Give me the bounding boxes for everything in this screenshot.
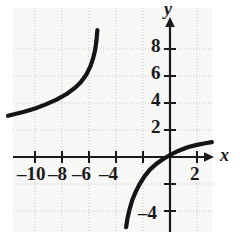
x-tick-label--10: –10 — [17, 164, 46, 183]
y-tick-label-2: 2 — [151, 117, 161, 136]
x-tick-label--6: –6 — [72, 164, 91, 183]
plot-background — [13, 8, 212, 232]
y-tick-label-6: 6 — [151, 63, 161, 82]
x-tick-label-2: 2 — [190, 164, 200, 183]
graph-figure: –10 –8 –6 –4 2 8 6 4 2 –4 y x — [0, 0, 240, 232]
coordinate-plane-svg — [0, 0, 240, 232]
x-tick-label--8: –8 — [48, 164, 67, 183]
x-axis-label: x — [220, 146, 229, 164]
y-axis-label: y — [164, 0, 172, 18]
y-tick-label-8: 8 — [151, 36, 161, 55]
y-tick-label--4: –4 — [138, 203, 157, 222]
y-tick-label-4: 4 — [151, 90, 161, 109]
x-tick-label--4: –4 — [99, 164, 118, 183]
